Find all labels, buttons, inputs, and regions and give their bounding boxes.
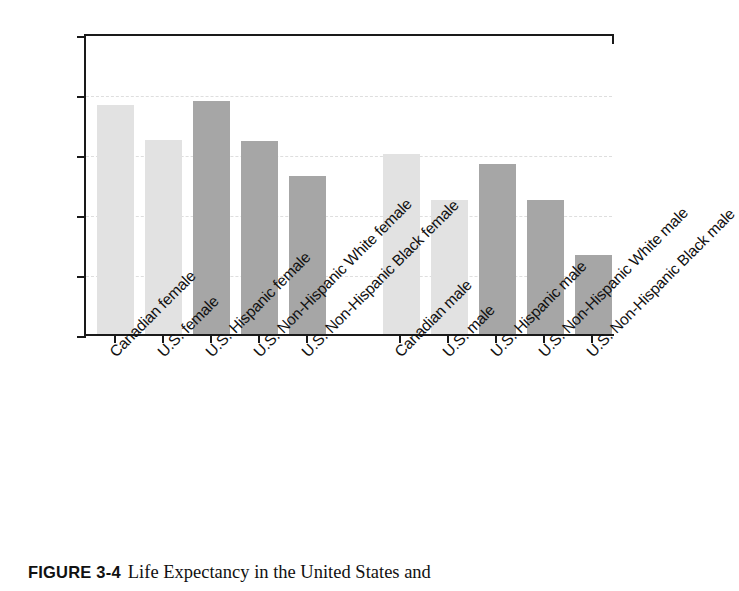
y-tick-65 (77, 336, 86, 338)
y-tick-75 (77, 216, 86, 218)
y-tick-90 (77, 36, 86, 38)
y-tick-80 (77, 156, 86, 158)
y-tick-70 (77, 276, 86, 278)
figure-caption-text: Life Expectancy in the United States and (128, 562, 431, 582)
figure-caption: FIGURE 3-4Life Expectancy in the United … (28, 562, 628, 583)
bar-1 (97, 105, 134, 334)
y-tick-85 (77, 96, 86, 98)
figure-caption-label: FIGURE 3-4 (28, 563, 121, 581)
gridline-85 (86, 96, 612, 97)
plot-right-cap (612, 34, 614, 44)
